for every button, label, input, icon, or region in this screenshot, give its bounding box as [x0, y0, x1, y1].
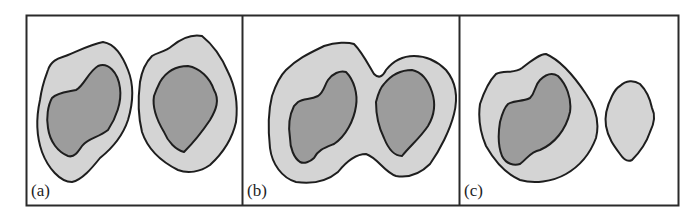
panel-c: (c) — [464, 54, 654, 200]
panel-b: (b) — [247, 43, 456, 200]
region-outer-contour-small — [605, 81, 654, 161]
panel-label-b: (b) — [247, 181, 267, 200]
figure: (a) (b) (c) — [0, 0, 700, 217]
panel-label-a: (a) — [31, 181, 50, 200]
panel-label-c: (c) — [464, 181, 483, 200]
panel-a: (a) — [31, 35, 237, 200]
